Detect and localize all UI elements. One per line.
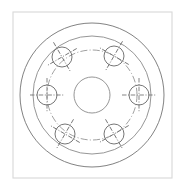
flange-drawing-svg [0,0,187,190]
drawing-canvas [0,0,187,190]
